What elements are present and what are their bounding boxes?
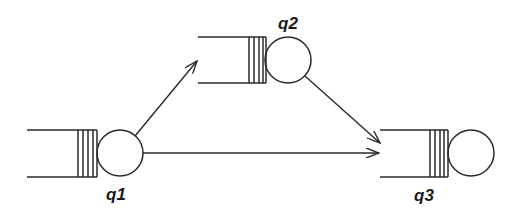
queueing-network-diagram: q1 q2 q3 (0, 0, 519, 215)
server-circle (265, 37, 311, 83)
queue-slots (78, 130, 97, 177)
node-label-q1: q1 (106, 185, 126, 204)
node-label-q2: q2 (278, 14, 298, 33)
queue-slots (249, 37, 266, 83)
queue-q2 (198, 37, 311, 83)
server-circle (97, 130, 143, 176)
queue-q3 (380, 130, 494, 177)
edge-q2-to-q3-arrow (305, 76, 380, 143)
queue-slots (430, 130, 448, 177)
edge-q1-to-q2-arrow (135, 61, 197, 136)
server-circle (448, 130, 494, 176)
node-label-q3: q3 (414, 186, 434, 205)
queue-q1 (27, 130, 143, 177)
